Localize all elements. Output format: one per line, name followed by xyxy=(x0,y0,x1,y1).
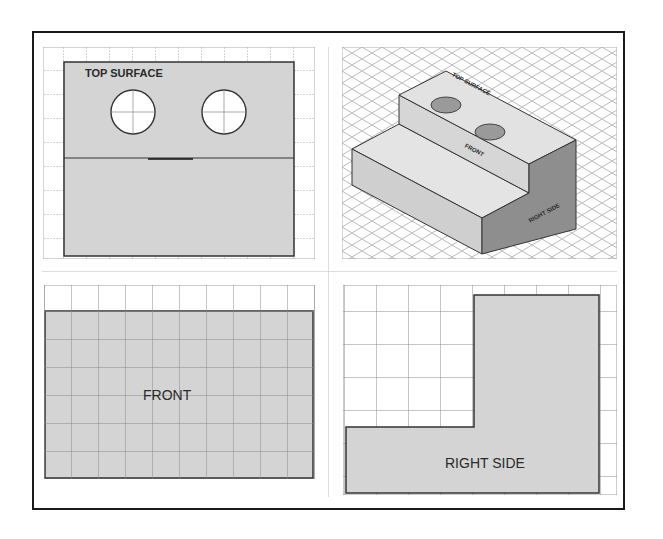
front-view-drawing xyxy=(44,285,315,479)
horizontal-divider xyxy=(42,271,617,272)
right-side-label: RIGHT SIDE xyxy=(445,455,525,471)
front-label: FRONT xyxy=(143,387,191,403)
top-surface-label: TOP SURFACE xyxy=(85,67,163,79)
isometric-view-panel: TOP SURFACE FRONT RIGHT SIDE xyxy=(342,47,617,259)
vertical-divider xyxy=(328,47,329,497)
top-view-drawing xyxy=(43,47,315,259)
front-view-panel: FRONT xyxy=(44,285,315,479)
top-view-panel: TOP SURFACE xyxy=(43,47,315,259)
right-side-view-panel: RIGHT SIDE xyxy=(343,285,617,495)
